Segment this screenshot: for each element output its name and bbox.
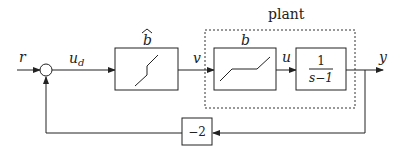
block-diagram: r ud b v plant b u 1 s−1 y −2 [0,0,404,153]
signal-u-label: u [282,49,291,65]
signal-y-label: y [378,49,388,65]
signal-ud-label: ud [69,50,84,68]
signal-r-label: r [19,49,27,65]
b-label: b [241,32,250,48]
feedback-gain-label: −2 [188,125,206,139]
bhat-label: b [143,32,152,48]
summing-junction [40,64,52,76]
tf-denominator: s−1 [309,71,333,85]
tf-numerator: 1 [317,54,325,68]
signal-v-label: v [193,50,201,66]
plant-label: plant [268,6,305,22]
